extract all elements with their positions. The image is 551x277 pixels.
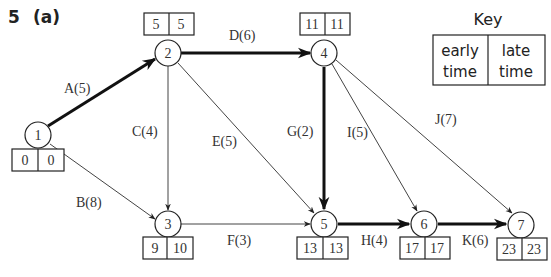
edge-b (50, 144, 155, 219)
node-2-late: 5 (178, 17, 185, 32)
edge-label-d: D(6) (229, 28, 256, 44)
node-3-early: 9 (152, 241, 159, 256)
node-7-late: 23 (527, 242, 541, 257)
edge-label-i: I(5) (347, 125, 368, 141)
activity-network-diagram: 5 (a) A(5) B(8) C(4) D(6) E(5) F(3) G(2) (0, 0, 551, 277)
edge-label-j: J(7) (435, 112, 457, 128)
node-4: 11 11 4 (300, 13, 350, 66)
node-5: 5 13 13 (297, 211, 348, 259)
node-6-early: 17 (405, 241, 419, 256)
edge-label-h: H(4) (361, 233, 388, 249)
node-1: 1 0 0 (12, 122, 64, 171)
key-legend: Key early time late time (433, 10, 545, 85)
edge-label-c: C(4) (132, 124, 158, 140)
edge-label-a: A(5) (64, 81, 91, 97)
node-6-late: 17 (430, 241, 444, 256)
node-4-late: 11 (330, 17, 343, 32)
node-7-id: 7 (518, 218, 525, 233)
question-number: 5 (8, 7, 20, 27)
key-left-line1: early (441, 42, 479, 60)
key-left-line2: time (443, 63, 477, 81)
node-3-late: 10 (173, 241, 187, 256)
node-1-id: 1 (35, 128, 42, 143)
node-2: 5 5 2 (144, 13, 194, 66)
key-right-line1: late (502, 42, 530, 60)
node-2-id: 2 (165, 46, 172, 61)
node-5-id: 5 (321, 217, 328, 232)
edge-label-k: K(6) (462, 233, 489, 249)
node-7-early: 23 (502, 242, 516, 257)
edge-i (332, 64, 417, 211)
node-1-early: 0 (22, 153, 29, 168)
node-6-id: 6 (421, 217, 428, 232)
node-1-late: 0 (48, 153, 55, 168)
node-3: 3 9 10 (143, 211, 193, 259)
key-title: Key (473, 10, 502, 29)
node-4-early: 11 (305, 17, 318, 32)
node-5-early: 13 (303, 241, 317, 256)
node-4-id: 4 (321, 46, 328, 61)
node-2-early: 5 (153, 17, 160, 32)
node-3-id: 3 (165, 217, 172, 232)
key-right-line2: time (499, 63, 533, 81)
edge-label-f: F(3) (227, 233, 251, 249)
edge-label-b: B(8) (76, 195, 102, 211)
node-7: 7 23 23 (497, 212, 547, 260)
node-5-late: 13 (329, 241, 343, 256)
edge-label-e: E(5) (212, 134, 237, 150)
edge-label-g: G(2) (287, 124, 314, 140)
question-part: (a) (33, 7, 60, 27)
node-6: 6 17 17 (400, 211, 450, 259)
